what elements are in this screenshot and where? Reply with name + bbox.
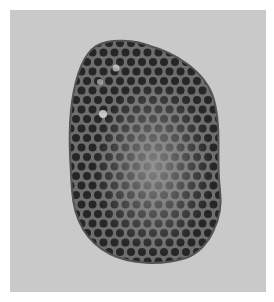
photograph [10, 10, 266, 292]
wasp-nest [10, 10, 266, 292]
